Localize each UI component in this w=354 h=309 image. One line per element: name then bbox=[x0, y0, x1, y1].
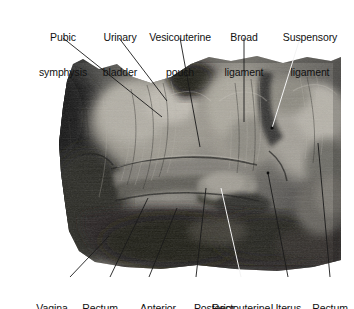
label-broad-ligament-line1: Broad bbox=[215, 32, 273, 44]
label-broad-ligament-line2: ligament bbox=[215, 67, 273, 79]
label-uterus: Uterus bbox=[262, 280, 310, 309]
label-rectum-right-line1: Rectum bbox=[306, 303, 354, 309]
label-broad-ligament: Broad ligament bbox=[215, 9, 273, 101]
label-rectum-left: Rectum bbox=[76, 280, 124, 309]
label-rectum-left-line1: Rectum bbox=[76, 303, 124, 309]
label-vagina: Vagina bbox=[28, 280, 76, 309]
label-vesicouterine-pouch: Vesicouterine pouch bbox=[137, 9, 223, 101]
label-vagina-line1: Vagina bbox=[28, 303, 76, 309]
label-suspensory-ligament-line1: Suspensory bbox=[272, 32, 348, 44]
label-rectum-right: Rectum bbox=[306, 280, 354, 309]
label-suspensory-ligament-line2: ligament bbox=[272, 67, 348, 79]
label-anterior-fornix-line1: Anterior bbox=[120, 303, 176, 309]
label-uterus-line1: Uterus bbox=[262, 303, 310, 309]
label-suspensory-ligament: Suspensory ligament bbox=[272, 9, 348, 101]
anatomical-figure: Pubic symphysis Urinary bladder Vesicout… bbox=[0, 0, 354, 309]
label-anterior-fornix: Anterior fornix bbox=[120, 280, 176, 309]
label-vesicouterine-pouch-line2: pouch bbox=[137, 67, 223, 79]
label-vesicouterine-pouch-line1: Vesicouterine bbox=[137, 32, 223, 44]
